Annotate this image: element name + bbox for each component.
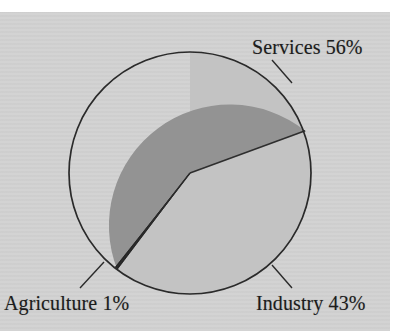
leader-line-industry (272, 265, 292, 288)
pie-chart-figure: Services 56% Industry 43% Agriculture 1% (0, 0, 405, 331)
pie-label-services: Services 56% (252, 36, 363, 59)
leader-line-agriculture (80, 262, 104, 288)
leader-line-services (272, 60, 292, 83)
pie-label-agriculture: Agriculture 1% (4, 292, 129, 315)
pie-label-industry: Industry 43% (256, 292, 366, 315)
